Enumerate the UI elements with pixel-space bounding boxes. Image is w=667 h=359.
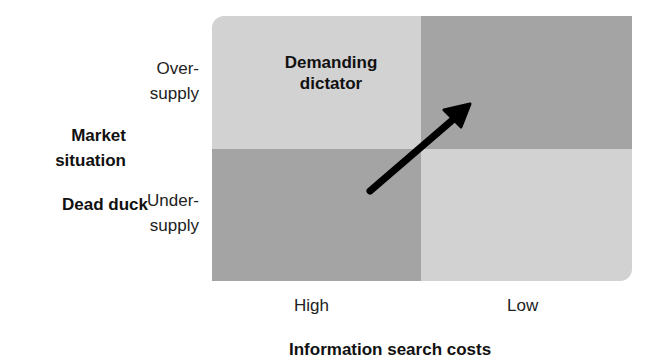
label-line: Demanding [266,52,396,73]
quadrant-undersupply-low [421,149,632,281]
quadrant-label-demanding-dictator: Demanding dictator [266,52,396,94]
y-axis-title: Market situation [0,123,126,173]
y-label-oversupply: Over- supply [150,56,199,106]
quadrant-oversupply-low [421,16,632,149]
label-line: Market [0,123,126,148]
label-line: supply [150,81,199,106]
quadrant-undersupply-high [212,149,421,281]
x-label-high: High [294,296,329,316]
quadrant-label-dead-duck: Dead duck [50,194,160,215]
label-line: Under- [147,188,199,213]
label-line: supply [147,213,199,238]
label-line: dictator [266,73,396,94]
y-label-undersupply: Under- supply [147,188,199,238]
x-axis-title: Information search costs [289,340,491,359]
label-line: Over- [150,56,199,81]
label-line: situation [0,148,126,173]
x-label-low: Low [507,296,538,316]
